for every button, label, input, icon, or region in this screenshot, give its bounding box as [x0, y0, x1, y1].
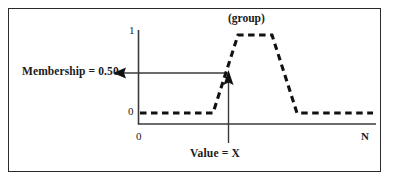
y-axis-tick-zero: 0 [128, 106, 134, 117]
y-axis-tick-one: 1 [129, 25, 135, 36]
x-axis-tick-zero: 0 [136, 131, 142, 142]
group-label: (group) [228, 13, 265, 25]
membership-curve [140, 35, 373, 113]
x-axis-tick-n: N [361, 131, 369, 142]
value-label: Value = X [190, 148, 240, 160]
membership-label: Membership = 0.50 [22, 66, 119, 78]
figure-page: Membership = 0.50 (group) Value = X 1 0 … [0, 0, 400, 182]
